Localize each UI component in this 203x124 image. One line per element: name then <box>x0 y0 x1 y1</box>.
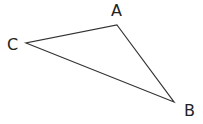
triangle-diagram: A C B <box>0 0 203 124</box>
vertex-label-b: B <box>184 103 195 119</box>
vertex-label-c: C <box>7 37 18 53</box>
vertex-label-a: A <box>111 3 122 19</box>
triangle-shape <box>0 0 203 124</box>
